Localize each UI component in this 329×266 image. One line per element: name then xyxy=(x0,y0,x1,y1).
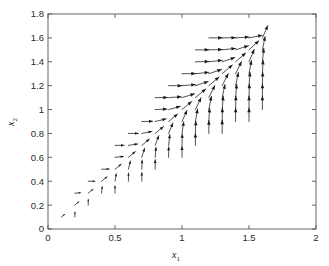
y-tick-label: 0.2 xyxy=(31,200,44,211)
y-tick-label: 0.8 xyxy=(31,128,44,139)
x-tick-label: 1 xyxy=(179,232,184,243)
quiver-plot-figure: 00.511.5200.20.40.60.811.21.41.61.8 x1 x… xyxy=(0,0,329,266)
y-tick-label: 0.6 xyxy=(31,152,44,163)
y-tick-label: 1.4 xyxy=(31,56,44,67)
y-tick-label: 1.2 xyxy=(31,80,44,91)
y-tick-label: 1 xyxy=(39,104,44,115)
y-tick-label: 1.6 xyxy=(31,32,44,43)
x-tick-label: 0.5 xyxy=(108,232,121,243)
y-tick-label: 0.4 xyxy=(31,176,44,187)
x-tick-label: 0 xyxy=(45,232,50,243)
y-tick-label: 1.8 xyxy=(31,8,44,19)
y-tick-label: 0 xyxy=(39,223,44,234)
x-tick-label: 2 xyxy=(313,232,318,243)
x-tick-label: 1.5 xyxy=(242,232,255,243)
plot-canvas: 00.511.5200.20.40.60.811.21.41.61.8 x1 x… xyxy=(0,0,329,266)
